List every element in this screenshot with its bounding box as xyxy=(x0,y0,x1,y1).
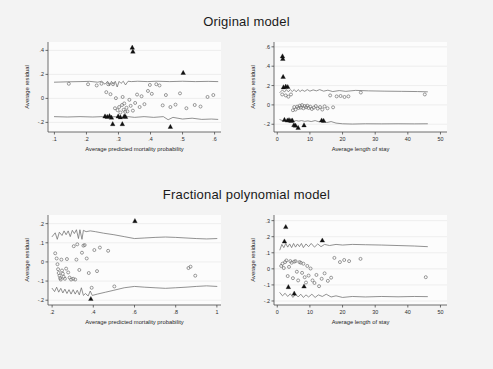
x-axis-tick-label: .6 xyxy=(212,136,217,142)
x-axis-tick-label: 50 xyxy=(437,136,443,142)
x-axis-tick-label: 30 xyxy=(372,309,378,315)
y-axis-tick-label: .2 xyxy=(40,71,45,77)
plot-area-background xyxy=(274,215,447,305)
x-axis-tick-label: .8 xyxy=(173,309,178,315)
y-axis-tick-label: .4 xyxy=(266,63,271,69)
y-axis-title: Average residual xyxy=(24,238,30,281)
plot-area-background xyxy=(274,42,447,132)
x-axis-title: Average predicted mortality probability xyxy=(85,146,184,152)
x-axis-tick-label: 20 xyxy=(340,136,346,142)
y-axis-title: Average residual xyxy=(250,65,256,108)
x-axis-tick-label: 50 xyxy=(437,309,443,315)
panel-title-fractional-polynomial: Fractional polynomial model xyxy=(0,187,493,202)
y-axis-title: Average residual xyxy=(250,238,256,281)
y-axis-tick-label: -.2 xyxy=(264,298,270,304)
y-axis-tick-label: 0 xyxy=(267,266,270,272)
x-axis-tick-label: 0 xyxy=(276,136,279,142)
plot-original-mortality-probability: .4.20-.2.1.2.3.4.5.6Average predicted mo… xyxy=(22,36,227,154)
x-axis-tick-label: 0 xyxy=(276,309,279,315)
x-axis-tick-label: 20 xyxy=(340,309,346,315)
x-axis-tick-label: .4 xyxy=(148,136,153,142)
scatter-canvas: .4.20-.2.1.2.3.4.5.6Average predicted mo… xyxy=(22,36,227,154)
y-axis-tick-label: .4 xyxy=(40,47,45,53)
y-axis-tick-label: 0 xyxy=(41,95,44,101)
scatter-canvas: .3.2.10-.1-.201020304050Average length o… xyxy=(248,209,453,327)
x-axis-tick-label: .3 xyxy=(116,136,121,142)
x-axis-tick-label: 30 xyxy=(372,136,378,142)
figure-page: Original model Fractional polynomial mod… xyxy=(0,0,493,369)
x-axis-title: Average length of stay xyxy=(332,319,390,325)
y-axis-tick-label: .6 xyxy=(266,44,271,50)
x-axis-tick-label: 40 xyxy=(405,309,411,315)
x-axis-tick-label: .2 xyxy=(84,136,89,142)
y-axis-tick-label: -.1 xyxy=(264,282,270,288)
x-axis-tick-label: .4 xyxy=(91,309,96,315)
plot-original-length-of-stay: .6.4.20-.201020304050Average length of s… xyxy=(248,36,453,154)
x-axis-tick-label: .2 xyxy=(50,309,55,315)
x-axis-tick-label: 40 xyxy=(405,136,411,142)
x-axis-tick-label: .1 xyxy=(52,136,57,142)
y-axis-tick-label: 0 xyxy=(267,102,270,108)
x-axis-tick-label: .6 xyxy=(132,309,137,315)
y-axis-tick-label: .3 xyxy=(266,218,271,224)
y-axis-tick-label: .2 xyxy=(40,221,45,227)
panel-title-original: Original model xyxy=(0,14,493,29)
y-axis-tick-label: .1 xyxy=(266,250,271,256)
x-axis-title: Average length of stay xyxy=(332,146,390,152)
scatter-canvas: .2.10-.1-.2.2.4.6.81Average predicted mo… xyxy=(22,209,227,327)
x-axis-tick-label: 10 xyxy=(307,309,313,315)
y-axis-title: Average residual xyxy=(24,65,30,108)
y-axis-tick-label: .1 xyxy=(40,240,45,246)
scatter-canvas: .6.4.20-.201020304050Average length of s… xyxy=(248,36,453,154)
y-axis-tick-label: -.1 xyxy=(38,278,44,284)
x-axis-tick-label: .5 xyxy=(180,136,185,142)
y-axis-tick-label: -.2 xyxy=(38,297,44,303)
plot-fp-mortality-probability: .2.10-.1-.2.2.4.6.81Average predicted mo… xyxy=(22,209,227,327)
x-axis-tick-label: 1 xyxy=(215,309,218,315)
y-axis-tick-label: 0 xyxy=(41,259,44,265)
y-axis-tick-label: -.2 xyxy=(38,119,44,125)
x-axis-title: Average predicted mortality probability xyxy=(85,319,184,325)
x-axis-tick-label: 10 xyxy=(307,136,313,142)
y-axis-tick-label: .2 xyxy=(266,83,271,89)
y-axis-tick-label: .2 xyxy=(266,234,271,240)
plot-fp-length-of-stay: .3.2.10-.1-.201020304050Average length o… xyxy=(248,209,453,327)
y-axis-tick-label: -.2 xyxy=(264,121,270,127)
